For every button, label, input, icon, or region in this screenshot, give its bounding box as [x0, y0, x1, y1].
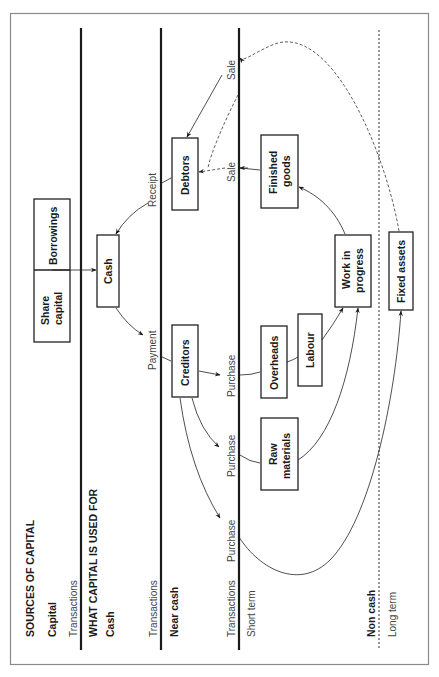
sale-finished-label: Sale: [226, 162, 237, 182]
box-raw-materials: Raw materials: [261, 418, 298, 490]
share-capital-line1: Share: [39, 296, 51, 325]
svg-text:Cash: Cash: [102, 258, 114, 284]
capital-flow-diagram: SOURCES OF CAPITAL Capital Transactions …: [0, 0, 439, 677]
cash-section-label: Cash: [104, 611, 116, 637]
svg-text:Finished: Finished: [267, 151, 279, 194]
svg-text:materials: materials: [280, 433, 292, 479]
near-cash-label: Near cash: [168, 587, 180, 637]
box-share-capital-borrowings: Share capital Borrowings: [34, 199, 70, 342]
sources-heading: SOURCES OF CAPITAL: [24, 519, 36, 637]
purchase-fixed-label: Purchase: [226, 519, 237, 562]
short-term-label: Short term: [246, 590, 257, 637]
share-capital-line2: capital: [52, 292, 64, 325]
purchase-overheads-label: Purchase: [226, 354, 237, 397]
svg-text:Raw: Raw: [267, 443, 279, 465]
capital-label: Capital: [46, 602, 58, 637]
box-cash: Cash: [97, 235, 119, 307]
box-fixed-assets: Fixed assets: [389, 232, 413, 310]
uses-heading: WHAT CAPITAL IS USED FOR: [87, 488, 99, 637]
svg-text:goods: goods: [280, 155, 292, 187]
cash-transactions-label: Transactions: [148, 580, 159, 637]
svg-text:Creditors: Creditors: [179, 339, 191, 386]
purchase-raw-label: Purchase: [226, 434, 237, 477]
box-work-in-progress: Work in progress: [335, 235, 371, 307]
borrowings-label: Borrowings: [47, 207, 59, 265]
diagram-frame: [11, 14, 429, 665]
sale-fixed-label: Sale: [226, 60, 237, 80]
svg-text:Debtors: Debtors: [179, 155, 191, 195]
svg-text:Work in: Work in: [340, 251, 352, 289]
payment-label: Payment: [147, 330, 158, 370]
box-finished-goods: Finished goods: [261, 135, 298, 208]
near-cash-transactions-label: Transactions: [226, 580, 237, 637]
non-cash-label: Non cash: [365, 590, 377, 637]
box-creditors: Creditors: [172, 325, 198, 397]
box-labour: Labour: [298, 314, 322, 386]
svg-text:Overheads: Overheads: [268, 336, 280, 390]
sources-transactions-label: Transactions: [68, 580, 79, 637]
long-term-label: Long term: [387, 592, 398, 637]
svg-text:Fixed assets: Fixed assets: [395, 240, 407, 303]
svg-text:Labour: Labour: [304, 332, 316, 368]
receipt-label: Receipt: [147, 173, 158, 207]
box-debtors: Debtors: [172, 138, 198, 210]
svg-text:progress: progress: [353, 248, 365, 293]
box-overheads: Overheads: [261, 326, 287, 398]
